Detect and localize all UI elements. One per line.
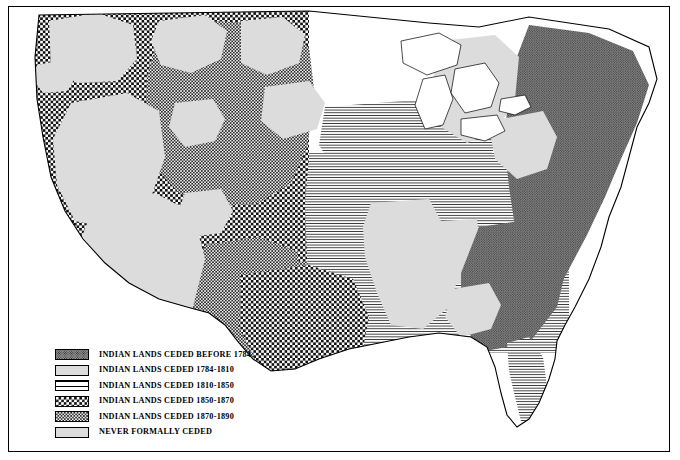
legend-swatch-never-ceded	[55, 427, 89, 438]
legend-label-before-1784: INDIAN LANDS CEDED BEFORE 1784	[99, 351, 251, 359]
legend-swatch-1850-1870	[55, 396, 89, 407]
legend-swatch-before-1784	[55, 349, 89, 360]
legend-item-before-1784: INDIAN LANDS CEDED BEFORE 1784	[55, 347, 305, 363]
legend-item-1810-1850: INDIAN LANDS CEDED 1810-1850	[55, 378, 305, 394]
map-legend: INDIAN LANDS CEDED BEFORE 1784 INDIAN LA…	[55, 347, 305, 440]
legend-label-never-ceded: NEVER FORMALLY CEDED	[99, 428, 212, 436]
legend-item-1870-1890: INDIAN LANDS CEDED 1870-1890	[55, 409, 305, 425]
legend-item-1850-1870: INDIAN LANDS CEDED 1850-1870	[55, 394, 305, 410]
legend-label-1810-1850: INDIAN LANDS CEDED 1810-1850	[99, 382, 234, 390]
map-page: INDIAN LANDS CEDED BEFORE 1784 INDIAN LA…	[0, 0, 680, 460]
legend-label-1870-1890: INDIAN LANDS CEDED 1870-1890	[99, 413, 234, 421]
legend-swatch-1870-1890	[55, 411, 89, 422]
legend-item-1784-1810: INDIAN LANDS CEDED 1784-1810	[55, 363, 305, 379]
legend-label-1850-1870: INDIAN LANDS CEDED 1850-1870	[99, 397, 234, 405]
map-frame: INDIAN LANDS CEDED BEFORE 1784 INDIAN LA…	[8, 6, 670, 452]
legend-swatch-1784-1810	[55, 365, 89, 376]
legend-label-1784-1810: INDIAN LANDS CEDED 1784-1810	[99, 366, 234, 374]
legend-item-never-ceded: NEVER FORMALLY CEDED	[55, 425, 305, 441]
legend-swatch-1810-1850	[55, 380, 89, 391]
